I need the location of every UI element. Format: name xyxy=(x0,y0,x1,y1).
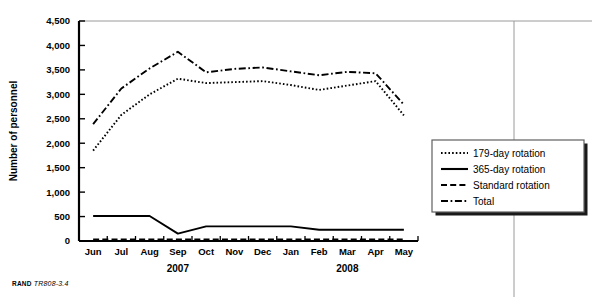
chart-text: 0 xyxy=(65,235,70,246)
legend-label-365-day-rotation: 365-day rotation xyxy=(473,164,545,175)
chart-text: Mar xyxy=(339,246,356,257)
series-line-365-day-rotation xyxy=(93,216,404,234)
chart-text: 2,500 xyxy=(46,113,70,124)
legend-label-total: Total xyxy=(473,196,494,207)
chart-text: 3,500 xyxy=(46,64,70,75)
chart-text: Jun xyxy=(85,246,102,257)
chart-text: 3,000 xyxy=(46,89,70,100)
rotation-personnel-line-chart: 05001,0001,5002,0002,5003,0003,5004,0004… xyxy=(0,0,592,297)
chart-text: 500 xyxy=(54,211,70,222)
chart-text: 1,500 xyxy=(46,162,70,173)
chart-text: 2,000 xyxy=(46,138,70,149)
chart-text: 4,000 xyxy=(46,40,70,51)
legend-label-standard-rotation: Standard rotation xyxy=(473,180,550,191)
chart-text: Oct xyxy=(198,246,215,257)
credit-id: TR808-3.4 xyxy=(34,280,69,287)
chart-text: Dec xyxy=(254,246,271,257)
chart-text: Sep xyxy=(169,246,187,257)
chart-text: Nov xyxy=(225,246,244,257)
chart-text: May xyxy=(395,246,414,257)
figure-credit: RAND TR808-3.4 xyxy=(12,280,69,287)
chart-text: Apr xyxy=(367,246,384,257)
series-line-179-day-rotation xyxy=(93,79,404,151)
chart-text: Number of personnel xyxy=(8,81,19,182)
chart-text: 2008 xyxy=(336,263,359,274)
chart-text: 2007 xyxy=(167,263,190,274)
chart-text: Aug xyxy=(140,246,159,257)
chart-text: 4,500 xyxy=(46,15,70,26)
chart-text: Feb xyxy=(311,246,328,257)
series-line-total xyxy=(93,52,404,124)
chart-text: Jul xyxy=(115,246,129,257)
credit-org: RAND xyxy=(12,280,32,287)
chart-text: 1,000 xyxy=(46,187,70,198)
chart-text: Jan xyxy=(283,246,300,257)
legend-label-179-day-rotation: 179-day rotation xyxy=(473,148,545,159)
